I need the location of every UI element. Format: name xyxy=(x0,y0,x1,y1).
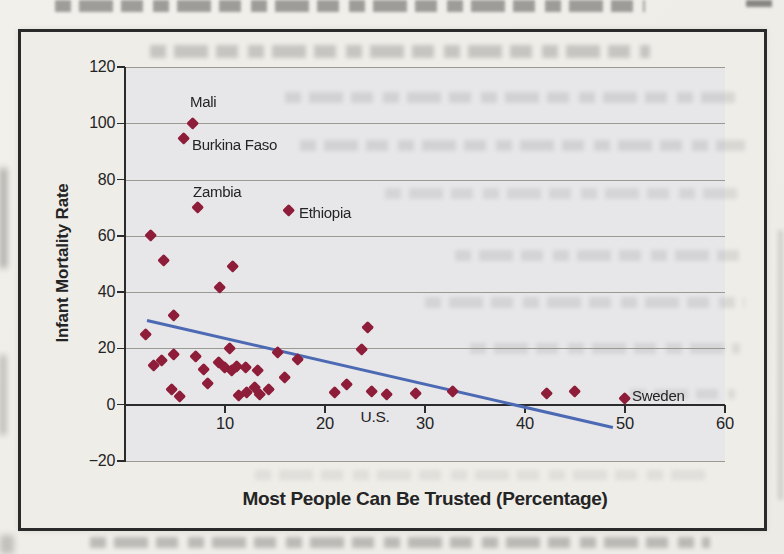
gridline-y60 xyxy=(125,236,725,237)
country-label: Burkina Faso xyxy=(192,136,277,153)
page-corner-smudge xyxy=(0,535,14,554)
y-tick-label: 20 xyxy=(63,339,115,357)
page-gutter-shadow xyxy=(0,355,6,435)
annotation-label: U.S. xyxy=(345,408,405,426)
y-axis-title: Infant Mortality Rate xyxy=(53,183,73,342)
ghost-text-line xyxy=(55,0,645,12)
y-tick-label: 40 xyxy=(63,283,115,301)
country-label: Sweden xyxy=(632,387,685,404)
y-tick-label: 80 xyxy=(63,171,115,189)
y-tick-label: −20 xyxy=(63,452,115,470)
y-tick-label: 60 xyxy=(63,227,115,245)
gridline-y80 xyxy=(125,180,725,181)
x-tick xyxy=(424,405,426,413)
x-tick-label: 40 xyxy=(503,414,547,432)
gridline-y120 xyxy=(125,67,725,68)
country-label: Ethiopia xyxy=(299,204,351,221)
x-tick-label: 30 xyxy=(403,414,447,432)
scanned-page: Infant Mortality Rate Most People Can Be… xyxy=(0,0,784,554)
gridline-y-20 xyxy=(125,461,725,462)
y-tick-label: 120 xyxy=(63,58,115,76)
y-axis-line xyxy=(124,67,126,462)
y-tick-label: 100 xyxy=(63,114,115,132)
x-tick-label: 50 xyxy=(603,414,647,432)
x-tick xyxy=(624,405,626,413)
x-axis-title: Most People Can Be Trusted (Percentage) xyxy=(125,488,725,510)
x-tick xyxy=(724,405,726,413)
country-label: Mali xyxy=(190,93,216,110)
gridline-y40 xyxy=(125,292,725,293)
x-tick xyxy=(324,405,326,413)
gridline-y20 xyxy=(125,348,725,349)
page-edge-shadow xyxy=(778,230,783,500)
ghost-text-line xyxy=(90,537,710,548)
x-tick-label: 10 xyxy=(203,414,247,432)
x-tick xyxy=(224,405,226,413)
page-gutter-shadow xyxy=(0,168,7,268)
country-label: Zambia xyxy=(193,183,241,200)
gridline-y100 xyxy=(125,123,725,124)
y-tick-label: 0 xyxy=(63,396,115,414)
x-tick-label: 60 xyxy=(703,414,747,432)
page-corner-smudge xyxy=(746,0,772,7)
x-tick-label: 20 xyxy=(303,414,347,432)
